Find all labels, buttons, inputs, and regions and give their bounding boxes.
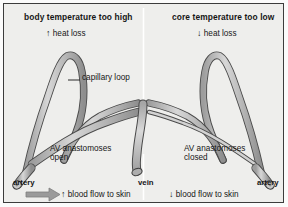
left-blood-flow-label: ↑ blood flow to skin (61, 190, 131, 200)
blood-flow-arrow-graphic (26, 188, 60, 201)
vein-label: vein (138, 179, 154, 187)
left-panel-title: body temperature too high (24, 13, 133, 22)
left-flow-text: blood flow to skin (68, 190, 131, 199)
right-blood-flow-label: ↓ blood flow to skin (169, 190, 239, 200)
left-heat-loss-text: heat loss (53, 29, 86, 38)
diagram-panel: body temperature too high core temperatu… (3, 3, 284, 203)
figure-root: body temperature too high core temperatu… (0, 0, 288, 207)
right-av-anastomoses-label: AV anastomoses closed (184, 145, 245, 162)
left-heat-arrow-icon: ↑ (46, 28, 51, 38)
capillary-loop-callout: capillary loop (82, 74, 130, 83)
right-av-line2: closed (184, 154, 245, 163)
left-artery-label: artery (13, 179, 35, 187)
right-flow-arrow-icon: ↓ (169, 189, 174, 199)
right-heat-loss-label: ↓ heat loss (197, 29, 237, 39)
left-heat-loss-label: ↑ heat loss (46, 29, 86, 39)
right-panel-title: core temperature too low (172, 13, 274, 22)
right-heat-loss-text: heat loss (204, 29, 237, 38)
right-heat-arrow-icon: ↓ (197, 28, 202, 38)
left-av-anastomoses-label: AV anastomoses open (50, 145, 111, 162)
right-artery-label: artery (257, 179, 279, 187)
left-flow-arrow-icon: ↑ (61, 189, 66, 199)
right-flow-text: blood flow to skin (176, 190, 239, 199)
left-av-line2: open (50, 154, 111, 163)
